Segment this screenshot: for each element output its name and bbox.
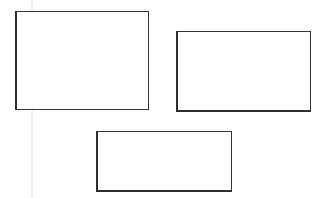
drawing-canvas xyxy=(0,0,329,198)
rectangle-shape-top-right[interactable] xyxy=(176,31,311,112)
rectangle-shape-bottom-center[interactable] xyxy=(96,131,232,192)
rectangle-shape-top-left[interactable] xyxy=(15,11,149,110)
